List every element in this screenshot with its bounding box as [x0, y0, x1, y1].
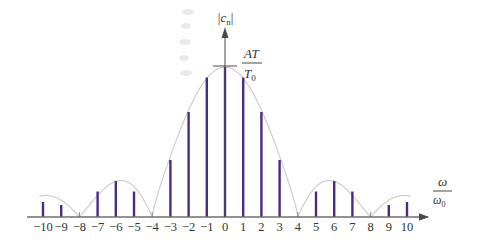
x-tick-label: 3: [276, 220, 282, 234]
x-axis-label: ω ω0: [433, 174, 452, 209]
x-tick-label: 7: [349, 220, 355, 234]
x-tick-label: 4: [295, 220, 302, 234]
x-tick-label: −9: [55, 220, 68, 234]
svg-text:|cn|: |cn|: [217, 10, 233, 27]
x-tick-label: −10: [33, 220, 53, 234]
x-tick-label: −6: [109, 220, 122, 234]
x-tick-label: 6: [331, 220, 337, 234]
x-tick-label: −2: [182, 220, 195, 234]
x-tick-label: 0: [222, 220, 228, 234]
x-tick-label: 8: [367, 220, 373, 234]
svg-text:ω0: ω0: [433, 193, 445, 209]
y-axis-arrow-icon: [222, 27, 229, 38]
x-tick-labels: −10−9−8−7−6−5−4−3−2−1012345678910: [33, 220, 413, 234]
x-tick-label: 1: [240, 220, 246, 234]
svg-text:ω: ω: [438, 174, 447, 189]
x-tick-label: 10: [401, 220, 414, 234]
stem-chart: −10−9−8−7−6−5−4−3−2−1012345678910 |cn| A…: [0, 0, 477, 246]
x-tick-label: 5: [313, 220, 319, 234]
scan-artifacts: [179, 9, 194, 76]
x-tick-label: −1: [200, 220, 213, 234]
x-tick-label: −7: [91, 220, 104, 234]
x-tick-label: 2: [258, 220, 264, 234]
x-tick-label: −8: [73, 220, 86, 234]
x-tick-label: −3: [164, 220, 177, 234]
x-tick-label: −4: [146, 220, 160, 234]
svg-text:AT: AT: [243, 46, 259, 61]
svg-text:T0: T0: [244, 66, 256, 83]
x-tick-label: 9: [386, 220, 392, 234]
peak-annotation: AT T0: [242, 46, 262, 83]
x-tick-label: −5: [127, 220, 140, 234]
y-axis-label: |cn|: [217, 10, 233, 27]
